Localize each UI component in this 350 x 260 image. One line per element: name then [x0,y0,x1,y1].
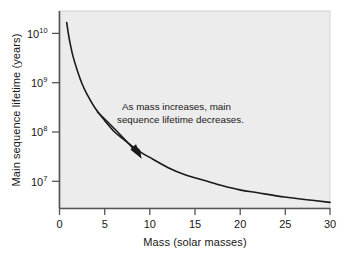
x-tick-label: 0 [56,218,62,230]
x-tick-label: 20 [234,218,246,230]
x-axis-title: Mass (solar masses) [143,236,246,248]
x-tick-label: 5 [102,218,108,230]
y-axis-title: Main sequence lifetime (years) [10,34,22,187]
chart-figure: 107 108 109 1010 0 5 10 15 20 25 30 Mass… [0,0,350,260]
x-tick-label: 25 [279,218,291,230]
x-tick-label: 30 [324,218,336,230]
annotation-line-1: As mass increases, main [122,101,231,112]
x-tick-label: 10 [144,218,156,230]
annotation-line-2: sequence lifetime decreases. [117,114,244,125]
x-tick-label: 15 [189,218,201,230]
